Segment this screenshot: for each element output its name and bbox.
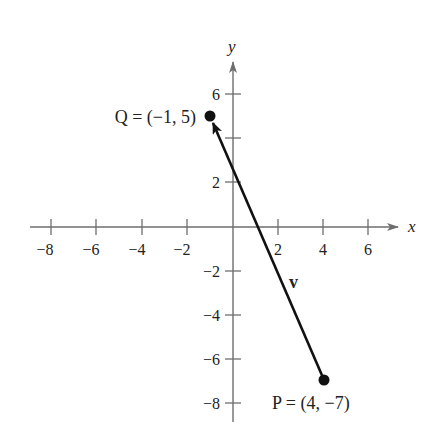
x-axis: −8 −6 −4 −2 2 4 6 x	[30, 217, 416, 258]
x-tick-label: 6	[364, 241, 372, 258]
x-tick-label: −2	[173, 241, 190, 258]
y-tick-label: −2	[203, 263, 220, 280]
x-tick-label: −6	[82, 241, 99, 258]
x-axis-label: x	[407, 217, 416, 236]
point-q-dot	[205, 111, 216, 122]
x-tick-label: 2	[274, 241, 282, 258]
x-tick-label: 4	[319, 241, 327, 258]
y-tick-label: −6	[203, 351, 220, 368]
y-axis-label: y	[226, 37, 236, 56]
point-p: P = (4, −7)	[272, 375, 350, 415]
x-tick-label: −8	[36, 241, 53, 258]
y-axis: 6 2 −2 −4 −6 −8 y	[203, 37, 241, 422]
point-p-dot	[319, 375, 330, 386]
point-q: Q = (−1, 5)	[115, 107, 216, 128]
point-p-label: P = (4, −7)	[272, 393, 350, 414]
coordinate-plane: −8 −6 −4 −2 2 4 6 x 6 2 −2 −4 −6 −8 y v	[0, 0, 437, 448]
x-tick-label: −4	[128, 241, 145, 258]
vector-v: v	[213, 123, 324, 380]
vector-label: v	[289, 272, 298, 292]
y-tick-label: 2	[212, 174, 220, 191]
point-q-label: Q = (−1, 5)	[115, 107, 196, 128]
y-tick-label: −4	[203, 307, 220, 324]
y-tick-label: −8	[203, 395, 220, 412]
y-tick-label: 6	[212, 86, 220, 103]
